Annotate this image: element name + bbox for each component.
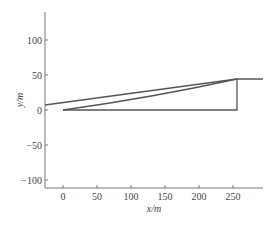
curved-line-series [63, 79, 237, 110]
ytick-label: 100 [27, 35, 42, 46]
xtick-label: 50 [92, 191, 102, 202]
ytick-label: 0 [37, 105, 42, 116]
xtick-label: 200 [192, 191, 207, 202]
ytick-label: −50 [26, 140, 42, 151]
xtick-label: 150 [158, 191, 173, 202]
ytick-label: −100 [21, 175, 42, 186]
x-axis-label: x/m [146, 203, 161, 214]
straight-line-series [45, 79, 237, 105]
y-axis-label: y/m [14, 93, 25, 108]
xtick-label: 100 [124, 191, 139, 202]
ytick-label: 50 [32, 70, 42, 81]
plot-lines [45, 79, 263, 110]
chart: 100 50 0 −50 −100 0 50 100 150 200 250 x… [0, 0, 279, 227]
xtick-label: 250 [226, 191, 241, 202]
xtick-label: 0 [61, 191, 66, 202]
